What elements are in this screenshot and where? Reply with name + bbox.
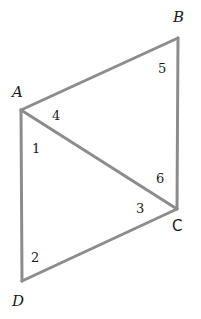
angle-label-3: 3 [136,201,144,216]
diagonal-ac [21,110,177,209]
angle-label-6: 6 [156,171,164,186]
angle-label-1: 1 [32,141,40,156]
angle-label-5: 5 [158,61,166,76]
vertex-label-d: D [11,292,24,310]
segment-da [21,110,22,281]
segment-bc [177,38,178,209]
angle-label-2: 2 [31,250,39,265]
vertex-label-b: B [172,8,184,26]
vertex-label-c: C [172,217,182,235]
segment-ab [21,38,178,110]
segment-cd [22,209,177,281]
angle-label-4: 4 [52,108,60,123]
vertex-label-a: A [10,83,23,101]
quadrilateral-diagram: A B C D 1 2 3 4 5 6 [0,0,201,319]
